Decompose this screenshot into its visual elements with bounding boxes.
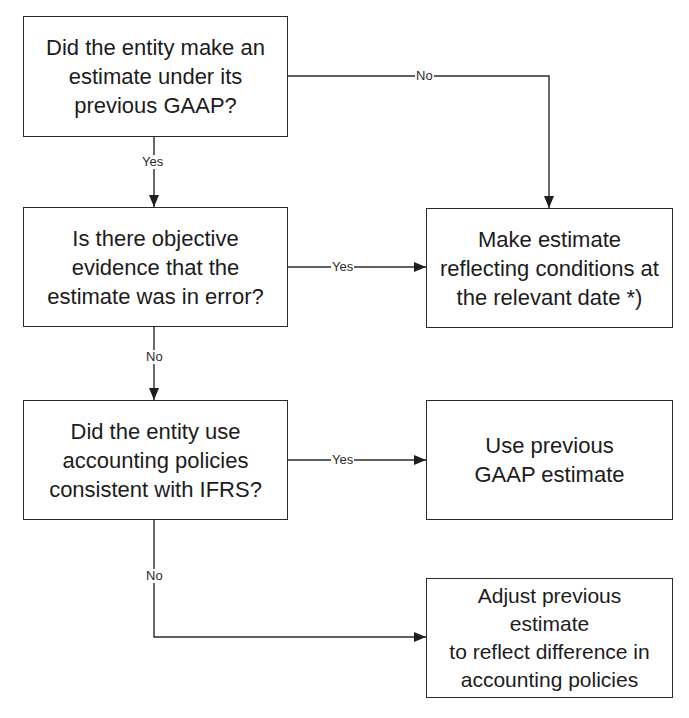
decision-box-policies-consistent-ifrs: Did the entity use accounting policies c…	[23, 400, 288, 520]
outcome-box-make-estimate: Make estimate reflecting conditions at t…	[426, 208, 673, 328]
flowchart-canvas: Did the entity make an estimate under it…	[0, 0, 689, 718]
outcome-text: Make estimate reflecting conditions at t…	[440, 225, 659, 312]
edge-q3-no-r3	[154, 520, 426, 637]
decision-box-previous-gaap-estimate: Did the entity make an estimate under it…	[23, 16, 288, 137]
outcome-text: Adjust previous estimate to reflect diff…	[437, 582, 662, 694]
edge-label-yes: Yes	[141, 155, 164, 169]
decision-box-objective-evidence-error: Is there objective evidence that the est…	[23, 207, 288, 327]
edge-q1-no-r1	[288, 76, 549, 208]
edge-label-no: No	[145, 350, 164, 364]
outcome-text: Use previous GAAP estimate	[475, 431, 625, 489]
decision-text: Is there objective evidence that the est…	[47, 224, 263, 311]
edge-label-no: No	[145, 569, 164, 583]
outcome-box-adjust-previous-estimate: Adjust previous estimate to reflect diff…	[426, 578, 673, 698]
outcome-box-use-previous-gaap: Use previous GAAP estimate	[426, 400, 673, 520]
decision-text: Did the entity use accounting policies c…	[49, 417, 262, 504]
edge-label-yes: Yes	[331, 260, 354, 274]
edge-label-no: No	[415, 69, 434, 83]
edge-label-yes: Yes	[331, 453, 354, 467]
decision-text: Did the entity make an estimate under it…	[46, 33, 265, 120]
